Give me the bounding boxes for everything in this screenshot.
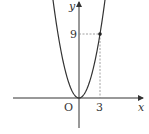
x-axis-label: x bbox=[138, 101, 145, 114]
origin-label: O bbox=[64, 101, 73, 114]
marked-point bbox=[98, 32, 102, 36]
x-tick-label: 3 bbox=[96, 101, 103, 114]
parabola-chart: y x O 3 9 bbox=[0, 0, 149, 134]
y-axis-label: y bbox=[68, 0, 76, 13]
y-tick-label: 9 bbox=[70, 28, 77, 41]
